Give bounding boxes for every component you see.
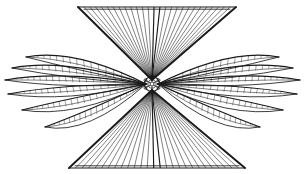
- figure-root: [0, 0, 305, 174]
- ornithopter-illustration: [0, 0, 305, 174]
- figure-background: [0, 0, 305, 174]
